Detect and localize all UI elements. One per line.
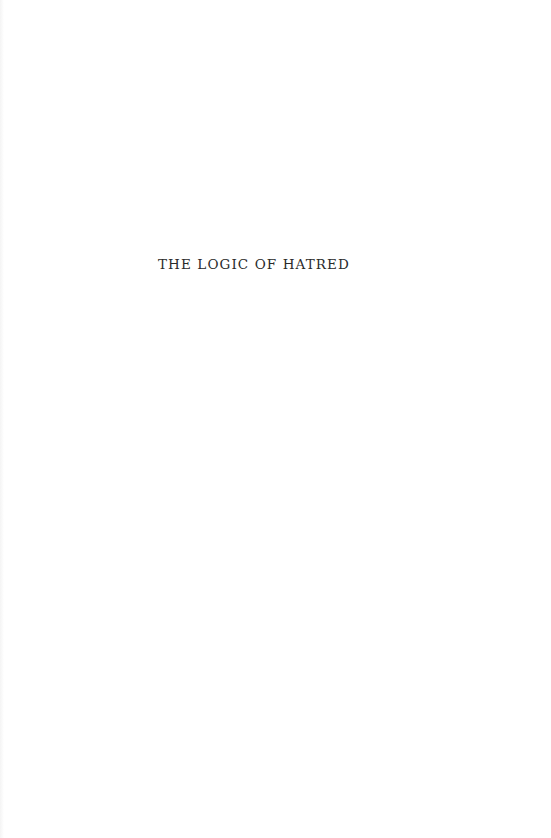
- page-edge-shadow: [0, 0, 4, 838]
- book-page: THE LOGIC OF HATRED: [0, 0, 551, 838]
- half-title: THE LOGIC OF HATRED: [158, 258, 350, 272]
